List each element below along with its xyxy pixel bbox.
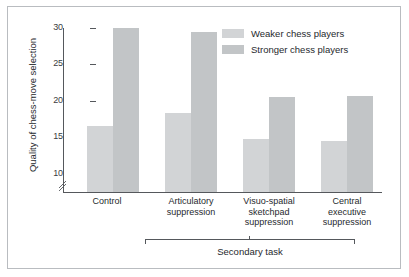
bar-centralexec-weaker [321,141,347,192]
category-label-control: Control [73,196,141,207]
bar-articulatory-stronger [191,32,217,192]
secondary-task-label: Secondary task [145,246,355,257]
bar-articulatory-weaker [165,113,191,192]
category-label-visuospatial-line1: Visuo-spatial [228,196,310,207]
legend-item-weaker: Weaker chess players [222,26,348,40]
category-label-articulatory: Articulatory suppression [150,196,232,217]
category-label-centralexec: Central executive suppression [306,196,388,228]
bracket-line [145,239,355,240]
category-label-articulatory-line1: Articulatory [150,196,232,207]
bracket-notch [249,236,250,240]
bar-visuospatial-weaker [243,139,269,192]
category-label-visuospatial-line3: suppression [228,217,310,228]
plot-area: Quality of chess-move selection 30 25 20… [0,0,409,277]
category-label-centralexec-line3: suppression [306,217,388,228]
category-label-centralexec-line2: executive [306,207,388,218]
bar-centralexec-stronger [347,96,373,192]
chart-legend: Weaker chess players Stronger chess play… [222,26,348,58]
chart-figure: Quality of chess-move selection 30 25 20… [0,0,409,277]
legend-swatch-weaker [222,29,244,38]
bar-visuospatial-stronger [269,97,295,192]
category-label-visuospatial: Visuo-spatial sketchpad suppression [228,196,310,228]
category-label-control-line1: Control [73,196,141,207]
bracket-end-left [145,239,146,244]
legend-swatch-stronger [222,45,244,54]
legend-label-stronger: Stronger chess players [251,44,348,55]
secondary-task-bracket [145,236,355,243]
category-label-articulatory-line2: suppression [150,207,232,218]
legend-item-stronger: Stronger chess players [222,42,348,56]
bar-control-stronger [113,28,139,192]
category-label-visuospatial-line2: sketchpad [228,207,310,218]
category-label-centralexec-line1: Central [306,196,388,207]
x-axis-line [63,192,382,193]
legend-label-weaker: Weaker chess players [251,28,344,39]
bracket-end-right [354,239,355,244]
bar-control-weaker [87,126,113,192]
